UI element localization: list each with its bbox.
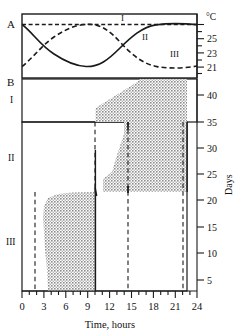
temperature-tick-21: 21 xyxy=(207,62,217,73)
time-tick-24: 24 xyxy=(192,301,203,312)
section-label-II: II xyxy=(8,153,14,163)
days-axis xyxy=(197,79,204,291)
time-tick-21: 21 xyxy=(170,301,181,312)
days-tick-15: 15 xyxy=(207,222,217,233)
days-tick-30: 30 xyxy=(207,143,217,154)
circadian-figure: I II III A °C 25 23 21 B xyxy=(0,0,245,335)
section-label-I: I xyxy=(10,95,13,105)
panel-b: B xyxy=(6,76,234,330)
curve-label-I: I xyxy=(121,13,124,23)
time-tick-9: 9 xyxy=(85,301,90,312)
curve-label-II: II xyxy=(142,32,148,42)
time-tick-6: 6 xyxy=(63,301,68,312)
temperature-axis xyxy=(197,14,204,78)
temperature-axis-label: °C xyxy=(206,12,216,22)
time-axis-label: Time, hours xyxy=(85,319,135,330)
activity-band-section-I xyxy=(95,79,187,122)
curve-label-III: III xyxy=(170,49,179,59)
activity-band-section-II xyxy=(103,122,187,192)
days-tick-5: 5 xyxy=(207,275,212,286)
panel-a: I II III A °C 25 23 21 xyxy=(7,12,217,78)
temperature-tick-25: 25 xyxy=(207,33,217,44)
section-label-III: III xyxy=(6,237,16,247)
time-tick-0: 0 xyxy=(19,301,24,312)
time-tick-3: 3 xyxy=(41,301,46,312)
panel-a-curves xyxy=(22,24,197,68)
days-tick-25: 25 xyxy=(207,169,217,180)
days-axis-label: Days xyxy=(223,174,234,195)
time-tick-18: 18 xyxy=(148,301,159,312)
curve-III-dashed-sinusoid xyxy=(22,24,197,68)
figure-root: I II III A °C 25 23 21 B xyxy=(0,0,245,335)
curve-II-solid-sinusoid xyxy=(22,24,197,67)
days-tick-10: 10 xyxy=(207,248,217,259)
time-axis xyxy=(22,291,197,298)
time-tick-12: 12 xyxy=(104,301,115,312)
days-tick-20: 20 xyxy=(207,195,217,206)
activity-band-section-III xyxy=(43,186,187,291)
time-tick-15: 15 xyxy=(126,301,137,312)
panel-label-B: B xyxy=(7,76,14,88)
days-tick-35: 35 xyxy=(207,117,217,128)
temperature-tick-23: 23 xyxy=(207,48,217,59)
panel-label-A: A xyxy=(7,18,15,30)
days-tick-40: 40 xyxy=(207,90,217,101)
